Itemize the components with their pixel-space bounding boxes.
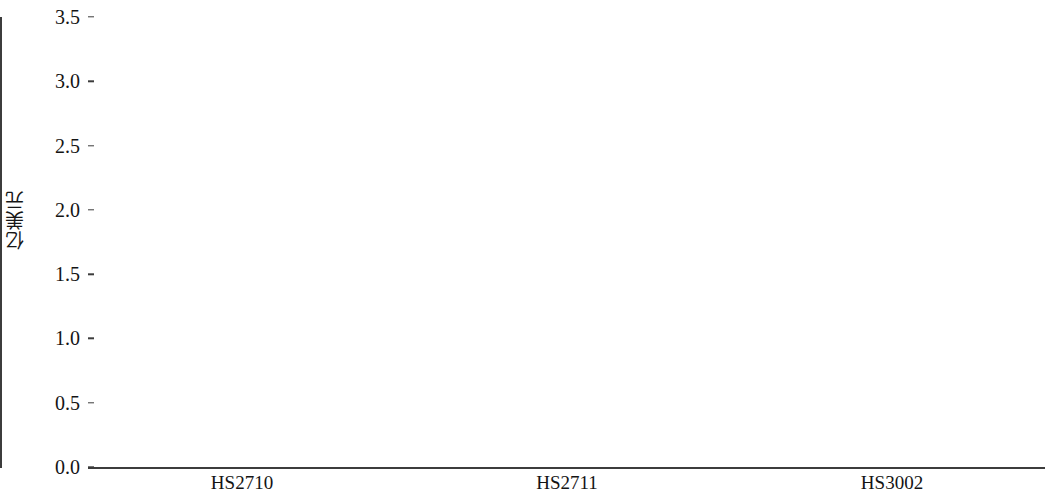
x-axis-line	[88, 467, 1045, 469]
x-axis-group-label-hs2711: HS2711	[536, 472, 598, 494]
x-axis-group-label-hs2710: HS2710	[211, 472, 273, 494]
x-axis-group-label-hs3002: HS3002	[861, 472, 923, 494]
bars-layer: 1.741.800.561.403.050.000.000.000.000.44…	[0, 0, 1049, 467]
bar-chart: 亿美元 0.00.51.01.52.02.53.03.5 1.741.800.5…	[0, 0, 1049, 494]
